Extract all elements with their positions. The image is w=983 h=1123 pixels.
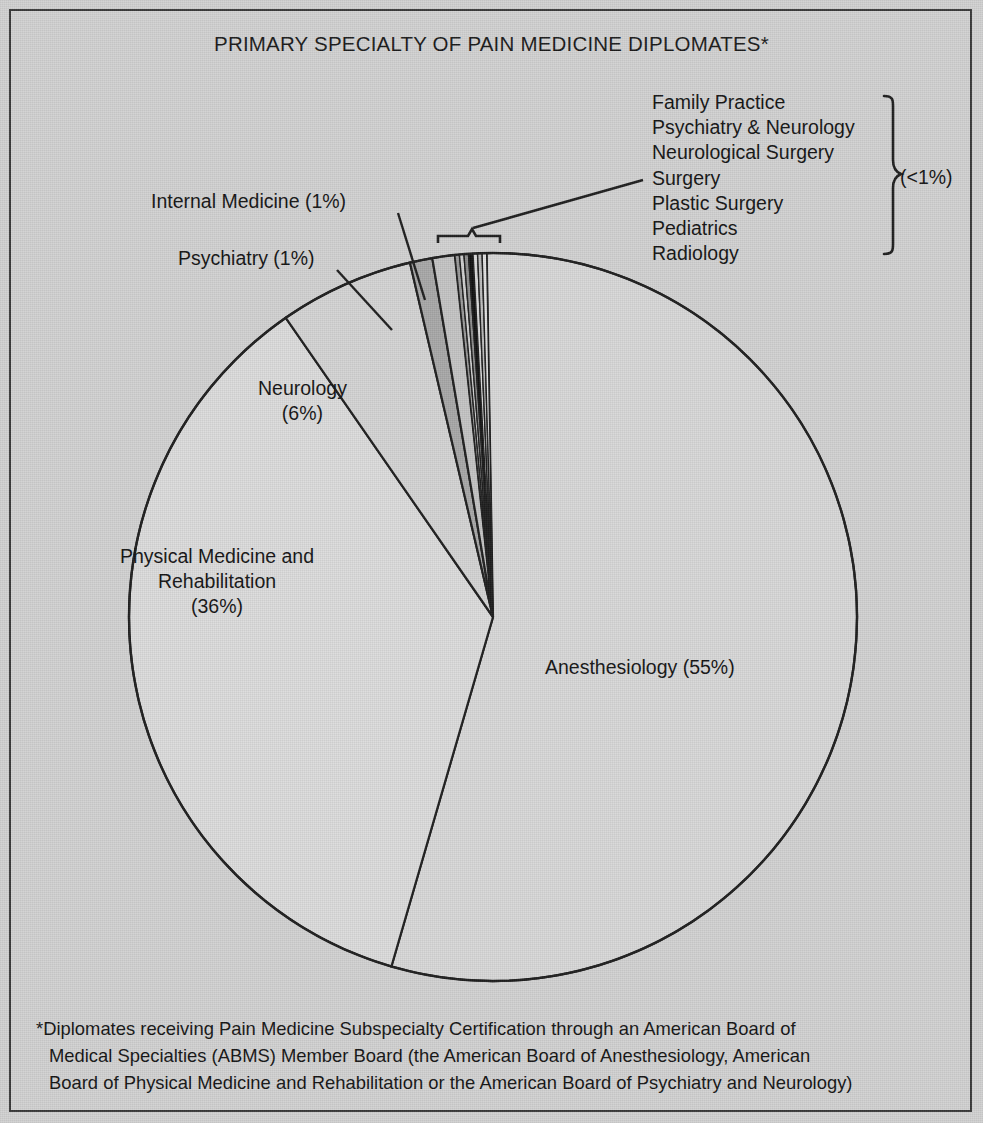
- legend-curly-brace: [884, 96, 901, 254]
- slice-label-internal-medicine: Internal Medicine (1%): [151, 189, 346, 214]
- slice-label-neurology: Neurology (6%): [258, 376, 347, 426]
- slice-label-pmr-line2: Rehabilitation: [120, 569, 314, 594]
- leader-line-tiny-slices: [473, 180, 643, 228]
- legend-item: Family Practice: [652, 90, 855, 115]
- figure-footnote: *Diplomates receiving Pain Medicine Subs…: [36, 1015, 952, 1096]
- footnote-line-2: Medical Specialties (ABMS) Member Board …: [49, 1042, 952, 1069]
- tiny-slice-bracket: [438, 229, 500, 243]
- legend-item: Psychiatry & Neurology: [652, 115, 855, 140]
- legend-small-slices: Family PracticePsychiatry & NeurologyNeu…: [652, 90, 855, 266]
- legend-item: Surgery: [652, 166, 855, 191]
- slice-label-anesthesiology: Anesthesiology (55%): [545, 655, 735, 680]
- legend-item: Neurological Surgery: [652, 140, 855, 165]
- slice-label-psychiatry: Psychiatry (1%): [178, 246, 315, 271]
- legend-item: Plastic Surgery: [652, 191, 855, 216]
- slice-label-neurology-line2: (6%): [258, 401, 347, 426]
- slice-label-physical-medicine-rehabilitation: Physical Medicine and Rehabilitation (36…: [120, 544, 314, 619]
- pie-chart-figure: PRIMARY SPECIALTY OF PAIN MEDICINE DIPLO…: [0, 0, 983, 1123]
- footnote-line-1: *Diplomates receiving Pain Medicine Subs…: [36, 1015, 952, 1042]
- legend-item: Radiology: [652, 241, 855, 266]
- slice-label-pmr-line1: Physical Medicine and: [120, 544, 314, 569]
- slice-label-pmr-line3: (36%): [120, 594, 314, 619]
- legend-item: Pediatrics: [652, 216, 855, 241]
- legend-bracket-note: (<1%): [900, 166, 953, 189]
- slice-label-neurology-line1: Neurology: [258, 376, 347, 401]
- footnote-line-3: Board of Physical Medicine and Rehabilit…: [49, 1069, 952, 1096]
- chart-title: PRIMARY SPECIALTY OF PAIN MEDICINE DIPLO…: [0, 32, 983, 56]
